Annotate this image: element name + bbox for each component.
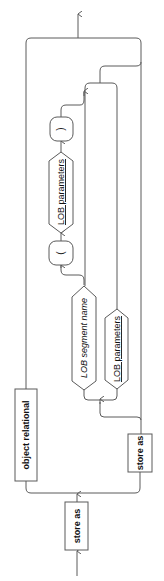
alt-exit: [100, 62, 141, 83]
branch-merge: [100, 402, 141, 420]
object-relational-keyword-box[interactable]: object relational: [15, 389, 37, 481]
store-as-label: store as: [72, 509, 82, 544]
split-junction: [26, 472, 140, 493]
paren-path-top: [61, 92, 84, 117]
lob-segment-name-label: LOB segment name: [79, 298, 89, 378]
store-as-keyword-box[interactable]: store as: [65, 502, 88, 550]
lob-segment-name-node[interactable]: LOB segment name: [72, 286, 96, 390]
paren-path-bottom: [61, 265, 84, 285]
lob-parameters-inner-label: LOB parameters: [56, 158, 66, 225]
store-as-branch-label: store as: [135, 436, 145, 471]
lob-parameters-inner-node[interactable]: LOB parameters: [49, 152, 73, 233]
lob-parameters-alt-label: LOB parameters: [112, 315, 122, 382]
alt-frame: [85, 83, 117, 309]
lob-parameters-alt-node[interactable]: LOB parameters: [105, 309, 128, 389]
alt-bottom: [84, 388, 117, 400]
close-paren-label: ): [55, 127, 66, 130]
store-as-branch-box[interactable]: store as: [128, 434, 152, 472]
object-relational-label: object relational: [21, 400, 31, 469]
close-paren-node[interactable]: ): [50, 117, 73, 141]
open-paren-node[interactable]: (: [49, 241, 73, 265]
syntax-diagram: store as object relational store as LOB …: [0, 0, 164, 581]
